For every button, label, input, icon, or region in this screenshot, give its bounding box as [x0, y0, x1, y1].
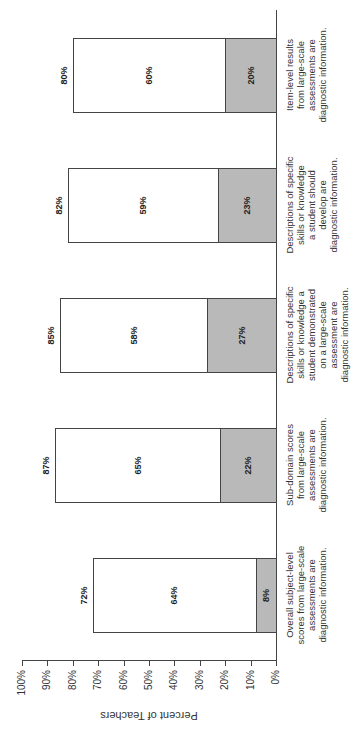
category-label-line: Sub-domain scores: [284, 406, 295, 524]
total-value-label: 80%: [59, 38, 69, 113]
y-tick-label: 60%: [119, 670, 129, 716]
y-tick: [225, 661, 226, 666]
white-value-label: 64%: [169, 558, 179, 633]
gray-value-label: 27%: [237, 298, 247, 373]
category-label: Descriptions of specificskills or knowle…: [284, 276, 350, 394]
y-tick-label: 90%: [42, 670, 52, 716]
white-value-label: 58%: [129, 298, 139, 373]
category-label-line: assessments are: [306, 406, 317, 524]
y-tick-label: 40%: [169, 670, 179, 716]
y-tick: [124, 661, 125, 666]
category-label-line: skills or knowledge a: [295, 276, 306, 394]
y-tick: [47, 661, 48, 666]
total-value-label: 87%: [41, 428, 51, 503]
y-tick-label: 70%: [93, 670, 103, 716]
category-label-line: Descriptions of specific: [284, 146, 295, 264]
category-label-line: Item-level results: [284, 16, 295, 134]
total-value-label: 85%: [46, 298, 56, 373]
category-label: Item-level resultsfrom large-scaleassess…: [284, 16, 328, 134]
y-tick-label: 80%: [68, 670, 78, 716]
category-label-line: diagnostic information.: [328, 146, 339, 264]
y-tick-label: 30%: [195, 670, 205, 716]
category-label-line: assessments are: [306, 16, 317, 134]
category-label-line: skills or knowledge: [295, 146, 306, 264]
category-label-line: student demonstrated: [306, 276, 317, 394]
total-value-label: 72%: [79, 558, 89, 633]
category-label: Sub-domain scoresfrom large-scaleassessm…: [284, 406, 328, 524]
category-label-line: diagnostic information.: [317, 16, 328, 134]
category-label-line: assessment are: [328, 276, 339, 394]
y-tick: [200, 661, 201, 666]
category-label-line: assessments are: [306, 536, 317, 654]
category-label-line: a student should: [306, 146, 317, 264]
category-label-line: diagnostic information.: [339, 276, 350, 394]
category-label-line: diagnostic information.: [317, 406, 328, 524]
gray-value-label: 8%: [261, 558, 271, 633]
y-tick-label: 0%: [271, 670, 281, 716]
category-label-line: on a large-scale: [317, 276, 328, 394]
gray-value-label: 22%: [243, 428, 253, 503]
chart-canvas: Percent of Teachers 0%10%20%30%40%50%60%…: [0, 0, 356, 736]
category-label: Overall subject-levelscores from large-s…: [284, 536, 328, 654]
y-tick: [174, 661, 175, 666]
y-tick: [73, 661, 74, 666]
category-label-line: diagnostic information.: [317, 536, 328, 654]
y-tick: [149, 661, 150, 666]
y-tick-label: 20%: [220, 670, 230, 716]
y-tick: [251, 661, 252, 666]
y-tick-label: 100%: [17, 670, 27, 716]
category-label: Descriptions of specificskills or knowle…: [284, 146, 339, 264]
category-label-line: scores from large-scale: [295, 536, 306, 654]
y-tick: [22, 661, 23, 666]
y-tick: [98, 661, 99, 666]
category-label-line: from large-scale: [295, 406, 306, 524]
category-label-line: Overall subject-level: [284, 536, 295, 654]
category-label-line: develop are: [317, 146, 328, 264]
white-value-label: 59%: [138, 168, 148, 243]
gray-value-label: 23%: [242, 168, 252, 243]
y-tick: [276, 661, 277, 666]
white-value-label: 60%: [144, 38, 154, 113]
category-label-line: from large-scale: [295, 16, 306, 134]
y-tick-label: 10%: [246, 670, 256, 716]
y-tick-label: 50%: [144, 670, 154, 716]
category-label-line: Descriptions of specific: [284, 276, 295, 394]
white-value-label: 65%: [133, 428, 143, 503]
gray-value-label: 20%: [246, 38, 256, 113]
total-value-label: 82%: [54, 168, 64, 243]
